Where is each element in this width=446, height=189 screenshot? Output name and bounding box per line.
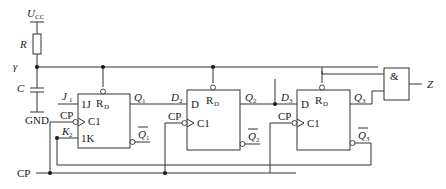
svg-text:J: J (62, 90, 68, 102)
svg-text:1: 1 (142, 97, 146, 105)
svg-text:3: 3 (289, 97, 293, 105)
svg-text:3: 3 (362, 97, 366, 105)
svg-text:D: D (214, 100, 219, 108)
svg-text:Q: Q (354, 91, 362, 103)
svg-text:Q: Q (245, 91, 253, 103)
svg-text:Q: Q (358, 129, 366, 141)
z-output-label: Z (427, 78, 434, 90)
and-gate: & Z (384, 68, 434, 100)
svg-text:Q: Q (138, 128, 146, 140)
svg-text:CP: CP (278, 110, 291, 122)
svg-text:1J: 1J (81, 98, 92, 110)
svg-text:D: D (323, 100, 328, 108)
svg-text:D: D (280, 91, 289, 103)
svg-text:2: 2 (69, 131, 73, 139)
capacitor-label: C (17, 82, 25, 94)
sequential-circuit-diagram: U CC R γ C GND R D 1J C1 1K J (0, 0, 446, 189)
ucc-sub: CC (35, 13, 45, 21)
svg-text:CP: CP (60, 109, 73, 121)
svg-text:C1: C1 (197, 117, 210, 129)
svg-text:2: 2 (253, 97, 257, 105)
svg-text:D: D (191, 98, 199, 110)
svg-text:2: 2 (256, 136, 260, 144)
svg-text:&: & (390, 70, 399, 82)
svg-text:R: R (96, 97, 104, 109)
svg-text:D: D (170, 91, 179, 103)
svg-text:R: R (315, 94, 323, 106)
resistor-label: R (19, 38, 27, 50)
svg-text:D: D (301, 98, 309, 110)
svg-text:1K: 1K (81, 132, 95, 144)
svg-text:1: 1 (69, 96, 73, 104)
resistor-r: R (19, 34, 41, 88)
svg-text:D: D (104, 103, 109, 111)
svg-text:Q: Q (248, 130, 256, 142)
flip-flop-3-d: R D D C1 D 3 CP Q 3 Q 3 (273, 85, 384, 150)
capacitor-c: C GND (17, 82, 49, 126)
svg-text:CP: CP (168, 110, 181, 122)
svg-text:Q: Q (134, 91, 142, 103)
svg-text:2: 2 (179, 97, 183, 105)
svg-text:1: 1 (146, 134, 150, 142)
svg-text:R: R (206, 94, 214, 106)
gnd-label: GND (25, 114, 49, 126)
svg-text:C1: C1 (88, 115, 101, 127)
switch-gamma-symbol: γ (13, 60, 18, 72)
power-supply-ucc: U CC (27, 7, 45, 34)
svg-text:3: 3 (366, 135, 370, 143)
clock-cp-label: CP (17, 167, 30, 179)
svg-text:C1: C1 (307, 117, 320, 129)
